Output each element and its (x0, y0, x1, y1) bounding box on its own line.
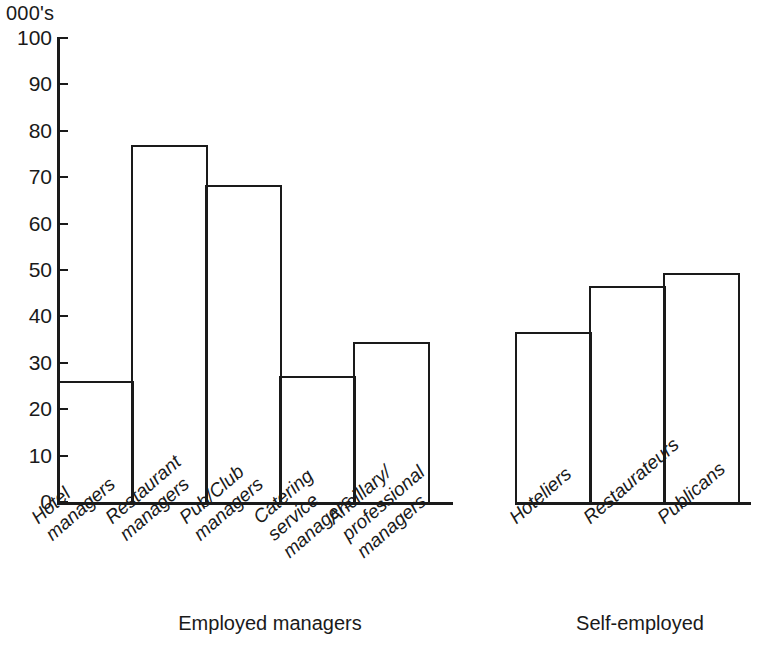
bar (353, 342, 430, 504)
y-axis-tick-label: 70 (2, 166, 52, 187)
bar (131, 145, 208, 504)
group-caption-employed-managers: Employed managers (140, 612, 400, 635)
y-axis-tick-label: 80 (2, 120, 52, 141)
y-axis-unit-label: 000's (6, 2, 54, 25)
y-axis-tick-label: 90 (2, 73, 52, 94)
bar (589, 286, 666, 504)
y-axis-tick-label: 30 (2, 352, 52, 373)
y-axis-tick-label: 40 (2, 305, 52, 326)
y-axis-tick-label: 50 (2, 259, 52, 280)
bar-chart: 000's 1009080706050403020100 Hotel manag… (0, 0, 766, 649)
y-axis-tick-label: 60 (2, 213, 52, 234)
bar (515, 332, 592, 504)
y-axis-tick-label: 20 (2, 398, 52, 419)
y-axis-tick-label: 100 (2, 27, 52, 48)
y-axis-tick-label: 10 (2, 445, 52, 466)
plot-area-employed-managers (57, 38, 450, 504)
bar (57, 381, 134, 504)
bar (279, 376, 356, 504)
bar (663, 273, 740, 504)
group-caption-self-employed: Self-employed (530, 612, 750, 635)
bar (205, 185, 282, 504)
plot-area-self-employed (515, 38, 751, 504)
